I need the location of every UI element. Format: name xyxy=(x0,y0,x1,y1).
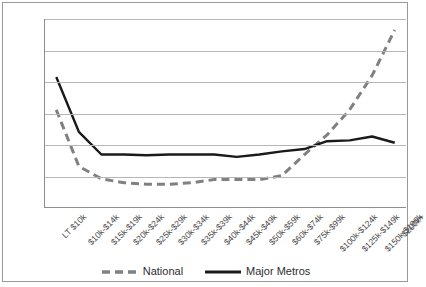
legend-solid-swatch xyxy=(205,265,241,277)
gridline xyxy=(45,19,406,20)
legend-item[interactable]: Major Metros xyxy=(205,265,310,277)
gridline xyxy=(45,145,406,146)
legend-item[interactable]: National xyxy=(102,265,183,277)
gridline xyxy=(45,114,406,115)
series-line-national xyxy=(56,30,394,184)
legend-label: National xyxy=(143,265,183,277)
legend-label: Major Metros xyxy=(246,265,310,277)
chart-frame: 1.81.61.41.210.80.6 LT $10k$10k-$14k$15k… xyxy=(2,2,408,282)
x-axis-tick-labels: LT $10k$10k-$14k$15k-$19k$20k-$24k$25k-$… xyxy=(44,209,406,265)
gridline xyxy=(45,51,406,52)
legend-dashed-swatch xyxy=(102,265,138,277)
gridline xyxy=(45,82,406,83)
gridline xyxy=(45,177,406,178)
chart-legend: NationalMajor Metros xyxy=(3,265,409,277)
x-axis-tick-label: LT $10k xyxy=(60,212,88,240)
plot-area xyxy=(44,19,406,208)
